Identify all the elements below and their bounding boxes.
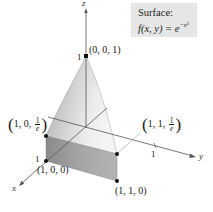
point-apex (84, 54, 88, 58)
surface-caption: Surface: f(x, y) = e−x² (131, 3, 197, 37)
frac-denominator: e (36, 125, 39, 133)
z-axis-arrow-icon (84, 8, 87, 13)
frac-denominator: e (170, 125, 173, 133)
paren-right: ) (175, 115, 181, 134)
label-xy1-base: (1, 1, 0) (115, 186, 147, 196)
fraction-one-over-e: 1e (35, 117, 41, 133)
point-x1-top (44, 134, 48, 138)
caption-title: Surface: (138, 7, 173, 18)
label-apex: (0, 0, 1) (89, 45, 121, 55)
surface-diagram: Surface: f(x, y) = e−x² z y x 1 1 1 (0, … (0, 0, 213, 212)
label-x1-base: (1, 0, 0) (37, 165, 69, 175)
label-x1-top: (1, 0, 1e) (8, 116, 47, 133)
x-tick-label: 1 (35, 155, 40, 164)
y-tick-label: 1 (151, 150, 156, 159)
z-axis-label: z (82, 0, 86, 8)
point-xy1-base (115, 179, 119, 183)
formula-base: f(x, y) = e (138, 23, 179, 34)
label-xy1-top: (1, 1, 1e) (142, 116, 181, 133)
x-axis-label: x (12, 184, 16, 193)
y-axis-arrow-icon (189, 154, 196, 158)
point-xy1-top (115, 152, 119, 156)
point-x1-base (44, 159, 48, 163)
caption-formula: f(x, y) = e−x² (138, 21, 189, 34)
paren-right: ) (41, 115, 47, 134)
z-tick-label: 1 (77, 53, 82, 62)
label-xy1-top-prefix: 1, 1, (148, 118, 168, 129)
formula-exponent: −x² (179, 21, 188, 28)
fraction-one-over-e: 1e (169, 117, 175, 133)
label-x1-top-prefix: 1, 0, (14, 118, 34, 129)
y-axis-label: y (199, 152, 203, 161)
